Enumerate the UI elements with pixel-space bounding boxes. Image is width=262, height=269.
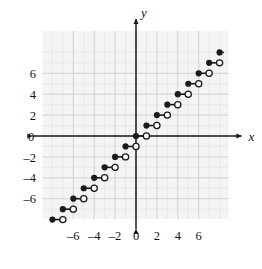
step-function-figure: –6–4–20246–6–4–20246 xy bbox=[0, 0, 262, 269]
y-tick-label: 2 bbox=[30, 109, 36, 123]
y-axis-label: y bbox=[139, 5, 147, 20]
y-tick-label: –6 bbox=[23, 192, 37, 206]
open-endpoint-dot bbox=[217, 60, 223, 66]
open-endpoint-dot bbox=[164, 112, 170, 118]
x-tick-label: 2 bbox=[154, 229, 160, 243]
y-tick-label: 0 bbox=[28, 130, 34, 144]
x-axis-label: x bbox=[248, 129, 255, 144]
closed-endpoint-dot bbox=[49, 217, 55, 223]
open-endpoint-dot bbox=[112, 164, 118, 170]
closed-endpoint-dot bbox=[112, 154, 118, 160]
y-tick-label: 4 bbox=[30, 88, 37, 102]
y-tick-label: –2 bbox=[23, 151, 37, 165]
closed-endpoint-dot bbox=[133, 133, 139, 139]
open-endpoint-dot bbox=[133, 143, 139, 149]
closed-endpoint-dot bbox=[175, 91, 181, 97]
closed-endpoint-dot bbox=[122, 143, 128, 149]
closed-endpoint-dot bbox=[154, 112, 160, 118]
closed-endpoint-dot bbox=[81, 185, 87, 191]
x-tick-label: –6 bbox=[66, 229, 80, 243]
closed-endpoint-dot bbox=[164, 102, 170, 108]
closed-endpoint-dot bbox=[60, 206, 66, 212]
closed-endpoint-dot bbox=[91, 175, 97, 181]
open-endpoint-dot bbox=[175, 102, 181, 108]
closed-endpoint-dot bbox=[70, 196, 76, 202]
closed-endpoint-dot bbox=[196, 70, 202, 76]
x-tick-label: –2 bbox=[108, 229, 122, 243]
x-tick-label: 4 bbox=[175, 229, 182, 243]
open-endpoint-dot bbox=[70, 206, 76, 212]
open-endpoint-dot bbox=[154, 122, 160, 128]
open-endpoint-dot bbox=[196, 81, 202, 87]
open-endpoint-dot bbox=[91, 185, 97, 191]
open-endpoint-dot bbox=[122, 154, 128, 160]
closed-endpoint-dot bbox=[102, 164, 108, 170]
x-tick-label: 0 bbox=[133, 229, 139, 243]
open-endpoint-dot bbox=[143, 133, 149, 139]
open-endpoint-dot bbox=[60, 217, 66, 223]
closed-endpoint-dot bbox=[185, 81, 191, 87]
x-tick-label: –4 bbox=[87, 229, 101, 243]
graph-canvas: –6–4–20246–6–4–20246 xy bbox=[0, 0, 262, 269]
y-tick-label: 6 bbox=[30, 67, 36, 81]
closed-endpoint-dot bbox=[206, 60, 212, 66]
open-endpoint-dot bbox=[206, 70, 212, 76]
closed-endpoint-dot bbox=[143, 122, 149, 128]
open-endpoint-dot bbox=[102, 175, 108, 181]
y-tick-label: –4 bbox=[23, 171, 37, 185]
open-endpoint-dot bbox=[185, 91, 191, 97]
open-endpoint-dot bbox=[81, 196, 87, 202]
closed-endpoint-dot bbox=[217, 49, 223, 55]
x-tick-label: 6 bbox=[196, 229, 202, 243]
